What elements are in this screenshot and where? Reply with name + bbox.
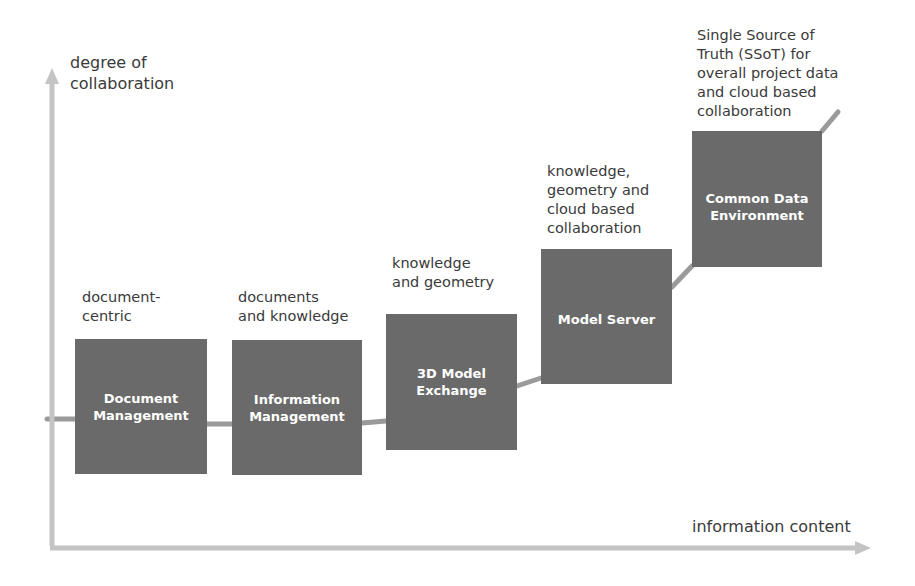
stage-title: Model Server [558, 311, 655, 328]
stage-box-3d-model-exchange: 3D Model Exchange [386, 314, 517, 450]
stage-box-document-management: Document Management [75, 339, 207, 474]
stage-description-common-data-environment: Single Source of Truth (SSoT) for overal… [697, 26, 838, 121]
stage-box-model-server: Model Server [541, 249, 672, 384]
stage-title: 3D Model Exchange [416, 365, 486, 399]
y-axis-label: degree of collaboration [70, 52, 174, 94]
stage-description-information-management: documents and knowledge [238, 288, 349, 326]
stage-title: Document Management [93, 390, 189, 424]
x-axis-arrow [50, 541, 871, 555]
stage-description-3d-model-exchange: knowledge and geometry [392, 254, 494, 292]
stage-box-information-management: Information Management [232, 340, 362, 475]
stage-description-document-management: document- centric [82, 288, 160, 326]
y-axis-arrow [45, 68, 59, 546]
stage-title: Common Data Environment [706, 190, 809, 224]
stage-box-common-data-environment: Common Data Environment [692, 131, 822, 267]
x-axis-label: information content [692, 516, 851, 537]
stage-description-model-server: knowledge, geometry and cloud based coll… [547, 162, 649, 238]
stage-title: Information Management [249, 391, 345, 425]
